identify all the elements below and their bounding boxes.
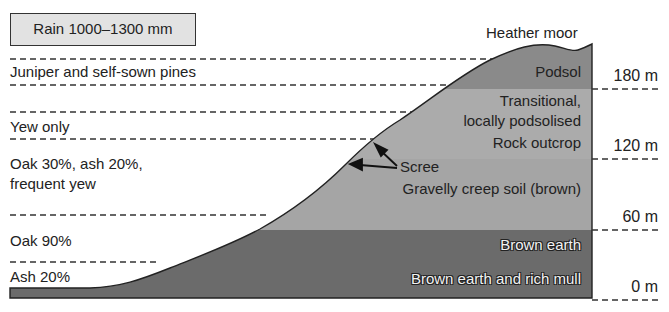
altitude-0-label: 0 m [598, 278, 658, 296]
altitude-60-label: 60 m [598, 208, 658, 226]
soil-rock-outcrop-label: Rock outcrop [493, 134, 581, 152]
zone-yew-label: Yew only [10, 118, 70, 136]
zone-juniper-label: Juniper and self-sown pines [10, 63, 196, 81]
scree-label: Scree [400, 158, 439, 176]
altitude-120-label: 120 m [598, 137, 658, 155]
zone-oak-ash-label-2: frequent yew [10, 175, 96, 193]
soil-transitional-label-2: locally podsolised [463, 112, 581, 130]
zone-oak-ash-label-1: Oak 30%, ash 20%, [10, 155, 143, 173]
altitude-lines [592, 89, 660, 300]
zone-ash20-label: Ash 20% [10, 268, 70, 286]
soil-brown-earth-label: Brown earth [500, 236, 581, 254]
rainfall-box: Rain 1000–1300 mm [10, 13, 196, 46]
zone-oak90-label: Oak 90% [10, 232, 72, 250]
soil-gravelly-label: Gravelly creep soil (brown) [403, 180, 581, 198]
soil-brown-earth-mull-label: Brown earth and rich mull [411, 270, 581, 288]
altitude-180-label: 180 m [598, 67, 658, 85]
soil-podsol-label: Podsol [535, 63, 581, 81]
heather-moor-label: Heather moor [486, 24, 578, 42]
vegetation-soil-profile-diagram: Rain 1000–1300 mm Heather moor Juniper a… [0, 0, 669, 312]
soil-transitional-label-1: Transitional, [500, 92, 581, 110]
